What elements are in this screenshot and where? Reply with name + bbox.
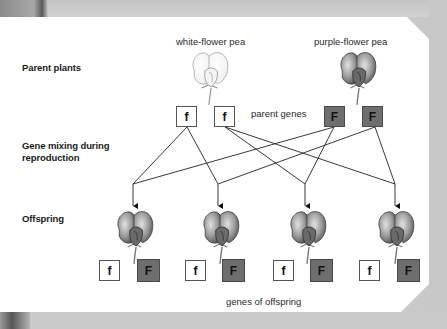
offspring-gene-box-recessive: f: [185, 260, 206, 281]
parent-gene-box-dominant: F: [362, 106, 383, 127]
parent-gene-box-dominant: F: [324, 106, 345, 127]
offspring-gene-box-recessive: f: [359, 260, 380, 281]
white-flower-pea-icon: [187, 50, 231, 108]
parent-gene-box-recessive: f: [176, 106, 197, 127]
offspring-gene-box-dominant: F: [222, 259, 245, 282]
parent-gene-box-recessive: f: [214, 106, 235, 127]
purple-flower-pea-icon: [335, 50, 379, 108]
offspring-gene-box-dominant: F: [397, 259, 420, 282]
offspring-gene-box-recessive: f: [99, 260, 120, 281]
offspring-gene-box-dominant: F: [137, 259, 160, 282]
offspring-gene-box-recessive: f: [273, 260, 294, 281]
offspring-gene-box-dominant: F: [310, 259, 333, 282]
